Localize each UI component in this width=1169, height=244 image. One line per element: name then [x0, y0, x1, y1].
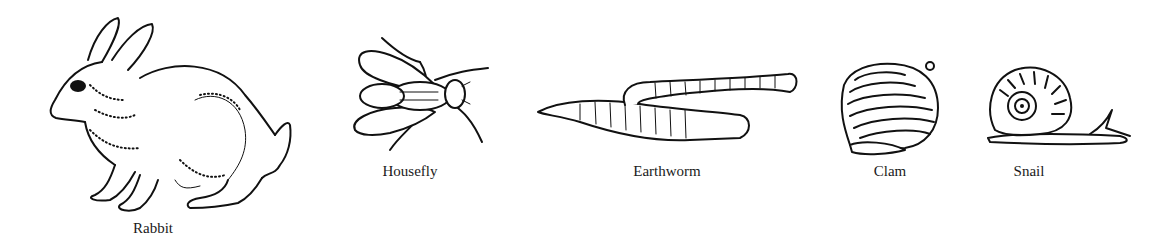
snail-icon [960, 0, 1169, 244]
earthworm-icon [520, 0, 820, 244]
rabbit-illustration: Rabbit [0, 0, 320, 244]
clam-icon [820, 0, 960, 244]
rabbit-icon [0, 0, 320, 244]
housefly-illustration: Housefly [320, 0, 520, 244]
label-housefly: Housefly [383, 163, 438, 180]
label-earthworm: Earthworm [633, 163, 700, 180]
earthworm-illustration: Earthworm [520, 0, 820, 244]
snail-illustration: Snail [960, 0, 1169, 244]
label-snail: Snail [1014, 163, 1045, 180]
label-clam: Clam [874, 163, 907, 180]
label-rabbit: Rabbit [133, 220, 173, 237]
housefly-icon [320, 0, 520, 244]
clam-illustration: Clam [820, 0, 960, 244]
